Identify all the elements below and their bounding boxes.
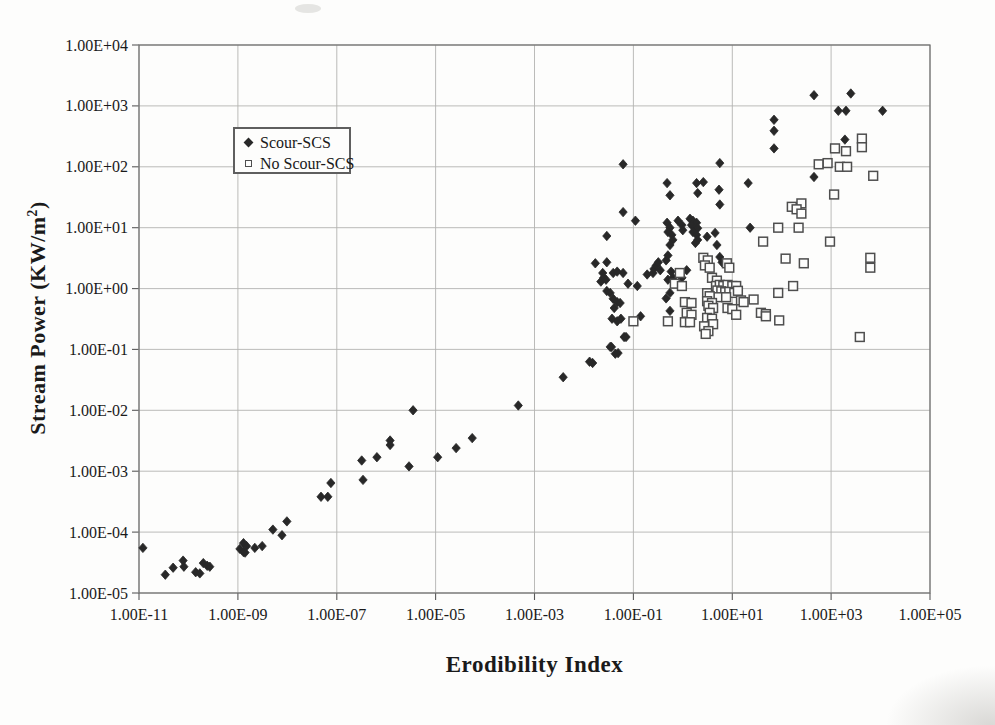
svg-text:1.00E-05: 1.00E-05	[69, 585, 128, 602]
open-square-icon	[245, 160, 252, 167]
y-axis-title-close: )	[25, 201, 50, 209]
legend-label-no-scour: No Scour-SCS	[260, 155, 354, 173]
svg-text:1.00E+02: 1.00E+02	[65, 158, 128, 175]
svg-text:1.00E+03: 1.00E+03	[800, 606, 863, 623]
svg-text:1.00E-04: 1.00E-04	[69, 524, 128, 541]
y-axis-title-text: Stream Power (KW/m	[25, 216, 50, 434]
legend-label-scour: Scour-SCS	[260, 134, 331, 152]
svg-text:1.00E-09: 1.00E-09	[208, 606, 267, 623]
legend-item-no-scour: No Scour-SCS	[244, 153, 349, 174]
svg-text:1.00E+03: 1.00E+03	[65, 97, 128, 114]
scatter-plot: 1.00E+041.00E+031.00E+021.00E+011.00E+00…	[0, 0, 995, 725]
svg-text:1.00E-11: 1.00E-11	[110, 606, 169, 623]
svg-text:1.00E-02: 1.00E-02	[69, 402, 128, 419]
svg-text:1.00E-01: 1.00E-01	[604, 606, 663, 623]
x-axis-title: Erodibility Index	[139, 652, 930, 678]
svg-text:1.00E-01: 1.00E-01	[69, 341, 128, 358]
svg-text:1.00E-03: 1.00E-03	[69, 463, 128, 480]
svg-text:1.00E+05: 1.00E+05	[899, 606, 962, 623]
svg-text:1.00E-03: 1.00E-03	[505, 606, 564, 623]
chart-page: 1.00E+041.00E+031.00E+021.00E+011.00E+00…	[0, 0, 995, 725]
svg-text:1.00E+01: 1.00E+01	[65, 219, 128, 236]
svg-text:1.00E-07: 1.00E-07	[307, 606, 366, 623]
scan-shadow	[885, 665, 995, 725]
y-axis-title-sup: 2	[25, 209, 40, 216]
svg-text:1.00E+04: 1.00E+04	[65, 37, 128, 54]
svg-text:1.00E-05: 1.00E-05	[406, 606, 465, 623]
legend: Scour-SCS No Scour-SCS	[233, 127, 351, 174]
filled-diamond-icon	[244, 138, 254, 148]
scan-artifact	[295, 4, 321, 13]
svg-text:1.00E+00: 1.00E+00	[65, 280, 128, 297]
y-axis-title: Stream Power (KW/m2)	[25, 153, 51, 483]
svg-text:1.00E+01: 1.00E+01	[701, 606, 764, 623]
legend-item-scour: Scour-SCS	[244, 132, 349, 153]
